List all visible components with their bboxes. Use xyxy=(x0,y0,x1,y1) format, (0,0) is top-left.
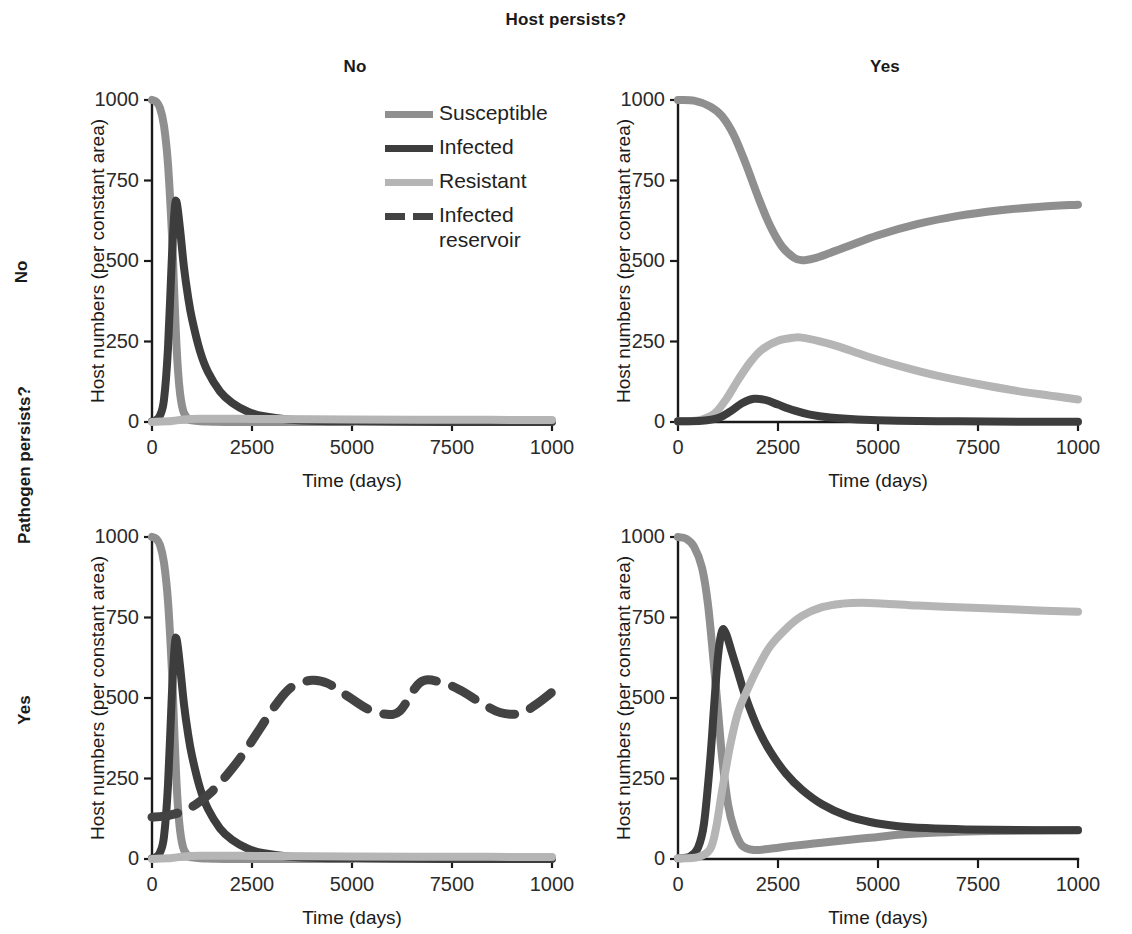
row-label-no: No xyxy=(12,212,32,332)
figure-canvas: Host persists? No Yes Pathogen persists?… xyxy=(0,0,1132,934)
curve-susceptible xyxy=(678,537,1078,850)
x-axis-title: Time (days) xyxy=(302,907,402,928)
curve-infected xyxy=(152,201,552,422)
x-tick-label: 7500 xyxy=(956,436,1001,458)
x-tick-label: 2500 xyxy=(756,873,801,895)
y-tick-label: 250 xyxy=(106,767,139,789)
column-axis-title: Host persists? xyxy=(0,10,1132,30)
curve-resistant xyxy=(152,856,552,859)
y-tick-label: 250 xyxy=(632,330,665,352)
y-axis-title: Host numbers (per constant area) xyxy=(613,556,634,840)
curve-resistant xyxy=(152,419,552,422)
x-tick-label: 7500 xyxy=(430,436,475,458)
x-tick-label: 5000 xyxy=(856,873,901,895)
y-tick-label: 500 xyxy=(106,249,139,271)
y-axis-title: Host numbers (per constant area) xyxy=(87,119,108,403)
y-tick-label: 250 xyxy=(632,767,665,789)
plot-top-right: 0250500750100002500500075001000Time (day… xyxy=(614,88,1096,500)
y-tick-label: 500 xyxy=(632,249,665,271)
x-tick-label: 7500 xyxy=(430,873,475,895)
column-label-yes: Yes xyxy=(785,57,985,77)
y-tick-label: 1000 xyxy=(95,525,140,547)
panel-top-left: 0250500750100002500500075001000Time (day… xyxy=(88,88,570,500)
plot-bottom-left: 0250500750100002500500075001000Time (day… xyxy=(88,525,570,934)
x-tick-label: 5000 xyxy=(856,436,901,458)
x-tick-label: 7500 xyxy=(956,873,1001,895)
y-tick-label: 750 xyxy=(632,606,665,628)
x-axis-title: Time (days) xyxy=(828,907,928,928)
y-tick-label: 1000 xyxy=(621,88,666,110)
x-tick-label: 0 xyxy=(146,436,157,458)
x-tick-label: 1000 xyxy=(1056,873,1101,895)
curve-infected-reservoir xyxy=(152,680,552,817)
row-axis-title: Pathogen persists? xyxy=(15,345,35,585)
y-tick-label: 250 xyxy=(106,330,139,352)
y-axis-title: Host numbers (per constant area) xyxy=(613,119,634,403)
x-axis-title: Time (days) xyxy=(828,470,928,491)
x-tick-label: 5000 xyxy=(330,873,375,895)
plot-bottom-right: 0250500750100002500500075001000Time (day… xyxy=(614,525,1096,934)
row-label-yes: Yes xyxy=(15,650,35,770)
panel-bottom-left: 0250500750100002500500075001000Time (day… xyxy=(88,525,570,934)
y-tick-label: 500 xyxy=(632,686,665,708)
y-tick-label: 1000 xyxy=(621,525,666,547)
y-tick-label: 750 xyxy=(106,169,139,191)
curve-infected xyxy=(152,638,552,859)
panel-top-right: 0250500750100002500500075001000Time (day… xyxy=(614,88,1096,500)
x-tick-label: 2500 xyxy=(756,436,801,458)
y-tick-label: 750 xyxy=(632,169,665,191)
curve-infected xyxy=(678,399,1078,422)
plot-top-left: 0250500750100002500500075001000Time (day… xyxy=(88,88,570,500)
x-tick-label: 0 xyxy=(672,873,683,895)
x-axis-title: Time (days) xyxy=(302,470,402,491)
curve-susceptible xyxy=(678,100,1078,260)
x-tick-label: 1000 xyxy=(1056,436,1101,458)
y-tick-label: 500 xyxy=(106,686,139,708)
x-tick-label: 0 xyxy=(672,436,683,458)
y-tick-label: 750 xyxy=(106,606,139,628)
y-tick-label: 0 xyxy=(128,410,139,432)
y-tick-label: 0 xyxy=(654,847,665,869)
y-tick-label: 1000 xyxy=(95,88,140,110)
axis-lines xyxy=(678,537,1078,859)
y-tick-label: 0 xyxy=(654,410,665,432)
y-axis-title: Host numbers (per constant area) xyxy=(87,556,108,840)
x-tick-label: 5000 xyxy=(330,436,375,458)
x-tick-label: 2500 xyxy=(230,436,275,458)
column-label-no: No xyxy=(255,57,455,77)
y-tick-label: 0 xyxy=(128,847,139,869)
x-tick-label: 1000 xyxy=(530,873,575,895)
x-tick-label: 2500 xyxy=(230,873,275,895)
panel-bottom-right: 0250500750100002500500075001000Time (day… xyxy=(614,525,1096,934)
curve-infected xyxy=(678,629,1078,858)
x-tick-label: 1000 xyxy=(530,436,575,458)
x-tick-label: 0 xyxy=(146,873,157,895)
